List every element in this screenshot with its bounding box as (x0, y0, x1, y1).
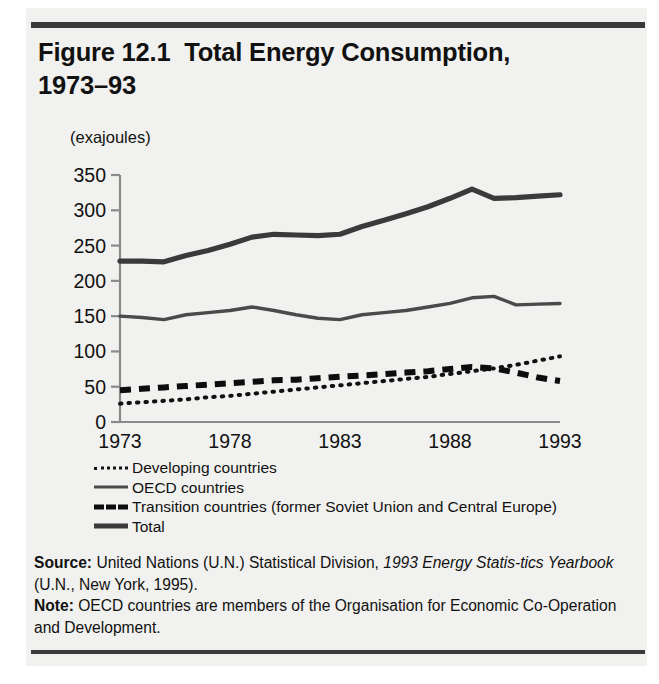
legend-key-thin-line-icon (92, 478, 132, 498)
y-tick-label: 50 (84, 376, 106, 398)
x-tick-label: 1993 (538, 430, 581, 452)
y-tick-label: 200 (73, 270, 106, 292)
plot-area: 0501001502002503003501973197819831988199… (0, 0, 659, 460)
y-tick-label: 300 (73, 199, 106, 221)
y-tick-label: 250 (73, 235, 106, 257)
legend-item-transition: Transition countries (former Soviet Unio… (92, 497, 562, 517)
y-tick-label: 100 (73, 340, 106, 362)
legend-label-transition: Transition countries (former Soviet Unio… (132, 497, 557, 517)
series-line-total (120, 189, 560, 262)
series-line-oecd (120, 296, 560, 319)
legend-label-oecd: OECD countries (132, 478, 244, 498)
source-label: Source: (34, 554, 92, 571)
figure-panel: Figure 12.1 Total Energy Consumption, 19… (0, 0, 659, 684)
legend-key-thick-line-icon (92, 517, 132, 537)
legend-key-dashed-icon (92, 497, 132, 517)
x-tick-label: 1978 (208, 430, 251, 452)
legend-item-total: Total (92, 517, 562, 537)
legend-item-oecd: OECD countries (92, 478, 562, 498)
note-text: OECD countries are members of the Organi… (34, 597, 616, 636)
source-text-b: (U.N., New York, 1995). (34, 576, 198, 593)
general-note: Note: OECD countries are members of the … (34, 595, 634, 638)
line-chart: 0501001502002503003501973197819831988199… (0, 0, 659, 460)
figure-notes: Source: United Nations (U.N.) Statistica… (34, 552, 634, 638)
note-label: Note: (34, 597, 74, 614)
source-text-a: United Nations (U.N.) Statistical Divisi… (92, 554, 383, 571)
x-tick-label: 1988 (428, 430, 471, 452)
bottom-divider-rule (31, 650, 645, 654)
x-tick-label: 1973 (98, 430, 141, 452)
source-note: Source: United Nations (U.N.) Statistica… (34, 552, 634, 595)
legend-item-developing: Developing countries (92, 458, 562, 478)
y-tick-label: 150 (73, 305, 106, 327)
page-margin-bottom (0, 666, 659, 684)
legend-label-developing: Developing countries (132, 458, 277, 478)
legend-key-dotted-icon (92, 458, 132, 478)
source-publication-title: 1993 Energy Statis-tics Yearbook (383, 554, 613, 571)
legend-label-total: Total (132, 517, 165, 537)
x-tick-label: 1983 (318, 430, 361, 452)
y-tick-label: 350 (73, 164, 106, 186)
chart-legend: Developing countries OECD countries Tran… (92, 458, 562, 536)
series-line-developing (120, 356, 560, 403)
